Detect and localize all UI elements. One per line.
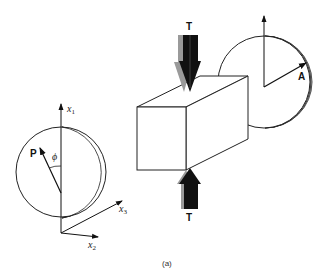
bottom-torque-arrow: T	[177, 168, 201, 223]
block-front-face	[137, 107, 186, 170]
x1-label: x1	[66, 103, 75, 116]
rectangular-block	[137, 76, 248, 170]
phi-label: ϕ	[52, 151, 57, 162]
vector-p-label: P	[30, 148, 37, 159]
vector-a-label: A	[298, 71, 305, 82]
left-disk: x1 x3 x2 P ϕ	[16, 103, 127, 252]
diagram-canvas: A T T x1 x3	[0, 0, 332, 280]
x2-label: x2	[87, 239, 96, 252]
x2-axis	[61, 233, 98, 237]
x3-label: x3	[118, 203, 127, 216]
bottom-torque-label: T	[186, 212, 192, 223]
top-torque-label: T	[186, 21, 192, 32]
figure-caption: (a)	[162, 259, 172, 268]
